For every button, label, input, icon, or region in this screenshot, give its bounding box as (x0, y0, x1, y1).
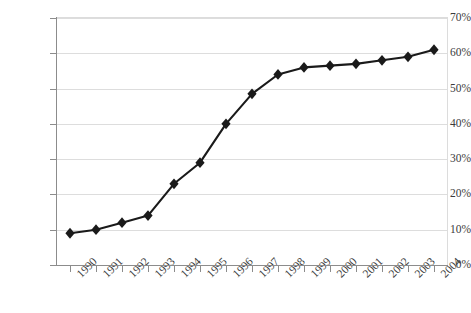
x-axis-label: 1992 (127, 272, 135, 280)
x-axis-label: 1995 (205, 272, 213, 280)
x-axis-label: 1999 (309, 272, 317, 280)
x-axis-label: 2000 (335, 272, 343, 280)
x-axis-label: 1994 (179, 272, 187, 280)
x-axis-tick (252, 266, 253, 272)
x-axis-label: 1998 (283, 272, 291, 280)
x-axis-tick (382, 266, 383, 272)
x-axis-label: 2004 (439, 272, 447, 280)
gridline (57, 89, 447, 90)
x-axis-tick (408, 266, 409, 272)
gridline (57, 124, 447, 125)
x-axis-tick (304, 266, 305, 272)
x-axis-line (56, 265, 448, 266)
x-axis-tick (226, 266, 227, 272)
x-axis-tick (330, 266, 331, 272)
x-axis-tick (96, 266, 97, 272)
x-axis-label: 1991 (101, 272, 109, 280)
gridline (57, 159, 447, 160)
x-axis-label: 1997 (257, 272, 265, 280)
x-axis-label: 1993 (153, 272, 161, 280)
y-axis-label: 40% (429, 118, 471, 130)
x-axis-label: 1996 (231, 272, 239, 280)
y-axis-label: 70% (429, 12, 471, 24)
y-axis-label: 10% (429, 224, 471, 236)
x-axis-tick (70, 266, 71, 272)
y-axis-label: 20% (429, 188, 471, 200)
x-axis-tick (434, 266, 435, 272)
y-axis-label: 30% (429, 153, 471, 165)
x-axis-label: 2002 (387, 272, 395, 280)
x-axis-tick (200, 266, 201, 272)
y-axis-label: 60% (429, 47, 471, 59)
gridline (57, 18, 447, 19)
x-axis-tick (278, 266, 279, 272)
y-axis-label: 50% (429, 83, 471, 95)
gridline (57, 230, 447, 231)
gridline (57, 53, 447, 54)
gridline (57, 194, 447, 195)
line-chart: 0%10%20%30%40%50%60%70% 1990199119921993… (0, 0, 471, 313)
x-axis-label: 2003 (413, 272, 421, 280)
x-axis-tick (174, 266, 175, 272)
y-axis-line (56, 17, 57, 266)
plot-area (57, 18, 447, 265)
x-axis-label: 1990 (75, 272, 83, 280)
x-axis-tick (148, 266, 149, 272)
x-axis-tick (356, 266, 357, 272)
x-axis-tick (122, 266, 123, 272)
x-axis-label: 2001 (361, 272, 369, 280)
